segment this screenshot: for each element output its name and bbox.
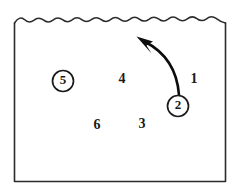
frame-border xyxy=(15,23,226,182)
label-3-text: 3 xyxy=(139,116,146,131)
wavy-top-edge xyxy=(15,17,226,23)
label-4-text: 4 xyxy=(119,71,126,86)
label-2-text: 2 xyxy=(175,97,182,112)
circled-label-5: 5 xyxy=(53,71,74,92)
label-1-text: 1 xyxy=(191,71,198,86)
label-5-text: 5 xyxy=(60,72,67,87)
diagram-svg: 5 2 1 3 4 6 xyxy=(0,0,238,192)
curved-arrow-shaft xyxy=(145,42,180,96)
circled-label-2: 2 xyxy=(168,96,189,117)
diagram-canvas: 5 2 1 3 4 6 xyxy=(0,0,238,192)
label-6-text: 6 xyxy=(94,117,101,132)
